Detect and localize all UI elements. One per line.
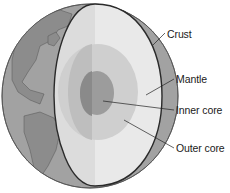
label-crust: Crust: [167, 28, 192, 40]
label-inner-core: Inner core: [176, 104, 222, 116]
label-outer-core: Outer core: [176, 142, 225, 154]
label-mantle: Mantle: [176, 73, 207, 85]
earth-cutaway-diagram: [0, 0, 230, 193]
